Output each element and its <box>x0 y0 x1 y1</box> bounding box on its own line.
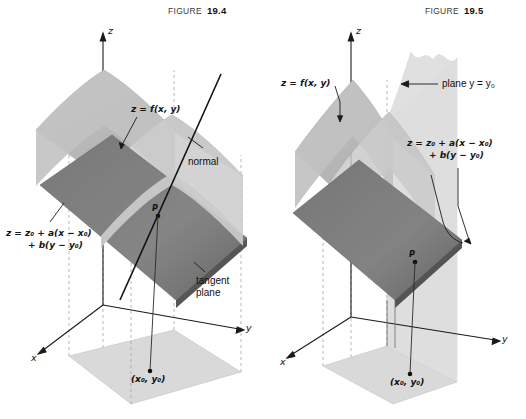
label-tangent-line2-left: plane <box>196 287 220 299</box>
x-axis-left <box>42 305 103 351</box>
ground-plane-left <box>69 330 241 404</box>
figure-19-4: FIGURE19.4 <box>0 0 263 419</box>
label-point-p-right: P <box>409 249 415 261</box>
label-axis-x-left: x <box>31 352 37 364</box>
label-axis-y-right: y <box>502 333 508 345</box>
figure-page: FIGURE19.4 <box>0 0 526 419</box>
figure-caption-left: FIGURE19.4 <box>168 5 227 16</box>
label-plane-eq-line2-left: + b(y − y₀) <box>28 240 83 252</box>
label-plane-eq-line2-right: + b(y − y₀) <box>429 150 484 162</box>
x-axis-right <box>291 317 351 355</box>
label-base-point-right: (x₀, y₀) <box>390 377 424 389</box>
figure-caption-word: FIGURE <box>168 6 202 16</box>
figure-left-graphic <box>0 0 263 419</box>
label-surface-right: z = f(x, y) <box>281 78 330 90</box>
label-normal-left: normal <box>188 156 219 168</box>
figure-right-graphic <box>263 0 526 419</box>
figure-caption-word: FIGURE <box>425 6 459 16</box>
leader-plane-eq-left <box>50 203 64 222</box>
label-axis-x-right: x <box>280 356 286 368</box>
label-axis-z-right: z <box>356 25 361 37</box>
figure-caption-right: FIGURE19.5 <box>425 5 484 16</box>
label-plane-eq-line1-right: z = z₀ + a(x − x₀) <box>407 138 493 150</box>
figure-caption-number: 19.4 <box>207 5 227 16</box>
label-base-point-left: (x₀, y₀) <box>131 374 165 386</box>
label-tangent-line1-left: tangent <box>196 275 229 287</box>
y-axis-left <box>103 305 239 329</box>
label-plane-y-right: plane y = y₀ <box>442 78 495 90</box>
label-point-p-left: P <box>152 203 158 215</box>
figure-caption-number: 19.5 <box>464 5 484 16</box>
label-axis-z-left: z <box>108 25 113 37</box>
label-plane-eq-line1-left: z = z₀ + a(x − x₀) <box>6 228 92 240</box>
label-axis-y-left: y <box>246 322 252 334</box>
figure-19-5: FIGURE19.5 <box>263 0 526 419</box>
label-surface-left: z = f(x, y) <box>131 104 180 116</box>
